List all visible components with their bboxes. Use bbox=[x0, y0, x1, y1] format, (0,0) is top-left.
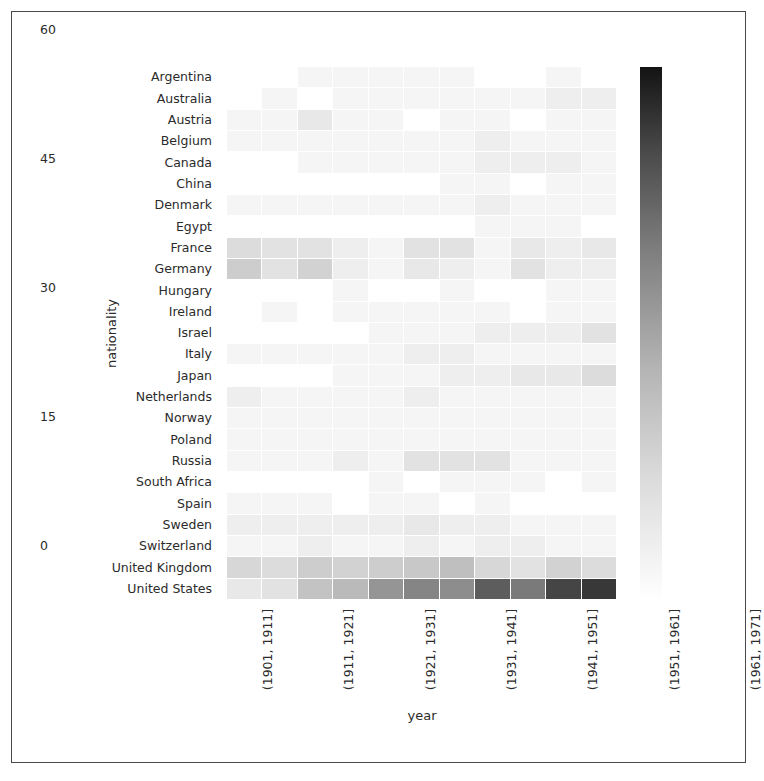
heatmap-cell bbox=[262, 387, 297, 408]
heatmap-cell bbox=[440, 493, 475, 514]
heatmap-cell bbox=[298, 302, 333, 323]
heatmap-cell bbox=[582, 365, 617, 386]
heatmap-cell bbox=[440, 451, 475, 472]
heatmap-cell bbox=[333, 88, 368, 109]
heatmap-cell bbox=[546, 408, 581, 429]
heatmap-grid bbox=[227, 67, 617, 600]
y-tick-label: Argentina bbox=[72, 67, 220, 88]
y-tick-label: Denmark bbox=[72, 195, 220, 216]
heatmap-cell bbox=[298, 88, 333, 109]
heatmap-cell bbox=[333, 216, 368, 237]
heatmap-cell bbox=[298, 280, 333, 301]
heatmap-cell bbox=[333, 429, 368, 450]
heatmap-cell bbox=[262, 88, 297, 109]
x-tick-label-text: (1961, 1971] bbox=[748, 609, 763, 690]
heatmap-cell bbox=[369, 557, 404, 578]
heatmap-cell bbox=[475, 152, 510, 173]
heatmap-cell bbox=[369, 216, 404, 237]
heatmap-cell bbox=[582, 344, 617, 365]
heatmap-cell bbox=[582, 515, 617, 536]
heatmap-cell bbox=[582, 280, 617, 301]
heatmap-cell bbox=[582, 429, 617, 450]
heatmap-cell bbox=[475, 344, 510, 365]
heatmap-cell bbox=[511, 259, 546, 280]
heatmap-cell bbox=[546, 387, 581, 408]
heatmap-cell bbox=[582, 302, 617, 323]
heatmap-cell bbox=[582, 88, 617, 109]
heatmap-cell bbox=[440, 238, 475, 259]
heatmap-cell bbox=[262, 152, 297, 173]
heatmap-cell bbox=[369, 280, 404, 301]
heatmap-cell bbox=[369, 195, 404, 216]
heatmap-cell bbox=[227, 536, 262, 557]
heatmap-cell bbox=[440, 88, 475, 109]
heatmap-cell bbox=[475, 280, 510, 301]
heatmap-cell bbox=[262, 280, 297, 301]
x-tick-label: (1951, 1961] bbox=[634, 604, 715, 704]
heatmap-cell bbox=[440, 259, 475, 280]
heatmap-cell bbox=[511, 216, 546, 237]
heatmap-cell bbox=[440, 408, 475, 429]
colorbar-gradient bbox=[640, 67, 662, 600]
heatmap-cell bbox=[582, 110, 617, 131]
heatmap-cell bbox=[369, 323, 404, 344]
heatmap-cell bbox=[262, 216, 297, 237]
heatmap-cell bbox=[262, 259, 297, 280]
heatmap-cell bbox=[546, 579, 581, 600]
x-tick-label-text: (1931, 1941] bbox=[504, 609, 519, 690]
heatmap-cell bbox=[582, 131, 617, 152]
heatmap-cell bbox=[440, 344, 475, 365]
heatmap-cell bbox=[227, 302, 262, 323]
x-tick-label: (1901, 1911] bbox=[227, 604, 308, 704]
heatmap-cell bbox=[333, 515, 368, 536]
heatmap-cell bbox=[333, 493, 368, 514]
heatmap-cell bbox=[369, 387, 404, 408]
heatmap-cell bbox=[404, 174, 439, 195]
heatmap-cell bbox=[475, 131, 510, 152]
heatmap-cell bbox=[440, 429, 475, 450]
heatmap-cell bbox=[511, 152, 546, 173]
heatmap-cell bbox=[227, 67, 262, 88]
heatmap-cell bbox=[546, 238, 581, 259]
heatmap-cell bbox=[511, 365, 546, 386]
heatmap-cell bbox=[546, 557, 581, 578]
y-tick-label: Japan bbox=[72, 365, 220, 386]
heatmap-cell bbox=[546, 429, 581, 450]
heatmap-cell bbox=[227, 88, 262, 109]
heatmap-cell bbox=[298, 472, 333, 493]
heatmap-cell bbox=[369, 259, 404, 280]
heatmap-cell bbox=[298, 515, 333, 536]
heatmap-cell bbox=[333, 365, 368, 386]
heatmap-cell bbox=[262, 408, 297, 429]
y-tick-label: Ireland bbox=[72, 301, 220, 322]
y-tick-label: Italy bbox=[72, 344, 220, 365]
heatmap-cell bbox=[582, 387, 617, 408]
heatmap-cell bbox=[262, 493, 297, 514]
heatmap-cell bbox=[404, 536, 439, 557]
heatmap-cell bbox=[227, 152, 262, 173]
heatmap-cell bbox=[298, 67, 333, 88]
y-tick-label: Canada bbox=[72, 152, 220, 173]
heatmap-cell bbox=[475, 110, 510, 131]
heatmap-cell bbox=[333, 536, 368, 557]
heatmap-cell bbox=[404, 493, 439, 514]
heatmap-cell bbox=[475, 579, 510, 600]
heatmap-cell bbox=[262, 238, 297, 259]
heatmap-cell bbox=[227, 174, 262, 195]
heatmap-cell bbox=[546, 302, 581, 323]
heatmap-cell bbox=[333, 472, 368, 493]
heatmap-cell bbox=[298, 110, 333, 131]
heatmap-cell bbox=[333, 344, 368, 365]
heatmap-cell bbox=[369, 408, 404, 429]
heatmap-cell bbox=[298, 493, 333, 514]
heatmap-cell bbox=[582, 195, 617, 216]
heatmap-cell bbox=[475, 302, 510, 323]
heatmap-cell bbox=[262, 365, 297, 386]
heatmap-cell bbox=[475, 174, 510, 195]
heatmap-cell bbox=[404, 131, 439, 152]
heatmap-cell bbox=[227, 408, 262, 429]
heatmap-cell bbox=[475, 365, 510, 386]
heatmap-cell bbox=[227, 259, 262, 280]
heatmap-cell bbox=[227, 579, 262, 600]
heatmap-cell bbox=[511, 302, 546, 323]
